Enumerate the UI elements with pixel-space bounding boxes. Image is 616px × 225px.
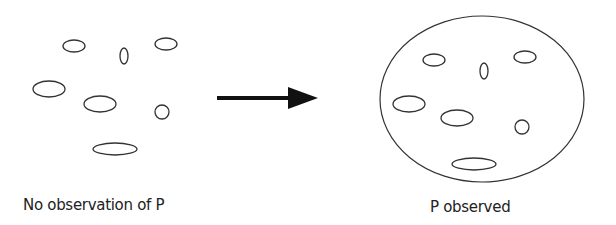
left-panel-ellipses bbox=[33, 38, 177, 155]
ellipse-shape bbox=[33, 81, 65, 97]
transition-arrow bbox=[217, 87, 318, 109]
diagram-canvas bbox=[0, 0, 616, 225]
arrow-head-icon bbox=[288, 87, 318, 109]
ellipse-shape bbox=[84, 96, 116, 112]
ellipse-shape bbox=[393, 96, 425, 112]
ellipse-shape bbox=[155, 105, 169, 119]
ellipse-shape bbox=[515, 120, 529, 134]
boundary-circle bbox=[380, 16, 584, 182]
ellipse-shape bbox=[441, 110, 473, 126]
ellipse-shape bbox=[93, 143, 137, 155]
ellipse-shape bbox=[423, 54, 445, 66]
right-panel bbox=[380, 16, 584, 182]
ellipse-shape bbox=[480, 63, 488, 79]
ellipse-shape bbox=[452, 158, 496, 170]
ellipse-shape bbox=[155, 38, 177, 50]
left-panel-label: No observation of P bbox=[23, 196, 164, 214]
right-panel-label: P observed bbox=[430, 198, 510, 216]
ellipse-shape bbox=[120, 48, 128, 64]
ellipse-shape bbox=[514, 51, 536, 63]
ellipse-shape bbox=[63, 40, 85, 52]
